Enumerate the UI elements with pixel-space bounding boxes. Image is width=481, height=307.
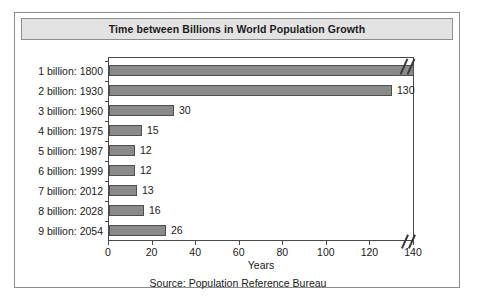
- bar-value-label: 26: [171, 223, 183, 238]
- bar: [109, 65, 414, 76]
- category-label: 4 billion: 1975: [38, 121, 103, 141]
- bar-value-label: 12: [140, 143, 152, 158]
- bar: [109, 105, 174, 116]
- y-axis-tick: [105, 201, 109, 202]
- x-axis-tick-label: 40: [189, 246, 201, 258]
- page-title: Time between Billions in World Populatio…: [109, 23, 365, 35]
- bar: [109, 125, 142, 136]
- plot-area: 1 billion: 18002 billion: 19303 billion:…: [15, 45, 461, 289]
- category-label: 6 billion: 1999: [38, 161, 103, 181]
- category-label: 3 billion: 1960: [38, 101, 103, 121]
- bar: [109, 205, 144, 216]
- bar-row: 30: [109, 101, 414, 121]
- chart-axes: 13030151212131626: [108, 57, 414, 241]
- x-axis-tick: [326, 241, 327, 245]
- x-axis-tick: [195, 241, 196, 245]
- x-axis-tick: [369, 241, 370, 245]
- bar-row: 12: [109, 161, 414, 181]
- bar: [109, 145, 135, 156]
- category-label: 2 billion: 1930: [38, 81, 103, 101]
- bar: [109, 225, 166, 236]
- bar-value-label: 15: [147, 123, 159, 138]
- source-note: Source: Population Reference Bureau: [15, 277, 461, 289]
- y-axis-tick: [105, 101, 109, 102]
- x-axis-tick: [413, 241, 414, 245]
- x-axis-tick-label: 60: [233, 246, 245, 258]
- category-axis-labels: 1 billion: 18002 billion: 19303 billion:…: [15, 61, 107, 241]
- y-axis-tick: [105, 121, 109, 122]
- axis-top-line: [108, 57, 414, 58]
- category-label: 1 billion: 1800: [38, 61, 103, 81]
- y-axis-tick: [105, 161, 109, 162]
- bar-row: 16: [109, 201, 414, 221]
- category-label: 9 billion: 2054: [38, 221, 103, 241]
- x-axis-tick-label: 140: [404, 246, 422, 258]
- x-axis-tick-label: 80: [276, 246, 288, 258]
- bar-value-label: 12: [140, 163, 152, 178]
- x-axis-tick: [108, 241, 109, 245]
- x-axis-tick-label: 0: [105, 246, 111, 258]
- bar: [109, 85, 392, 96]
- y-axis-tick: [105, 141, 109, 142]
- x-axis-tick: [152, 241, 153, 245]
- x-axis-tick: [282, 241, 283, 245]
- bar-row: 12: [109, 141, 414, 161]
- category-label: 5 billion: 1987: [38, 141, 103, 161]
- category-label: 8 billion: 2028: [38, 201, 103, 221]
- x-axis-tick-label: 100: [317, 246, 335, 258]
- bar-value-label: 13: [142, 183, 154, 198]
- bar-value-label: 16: [149, 203, 161, 218]
- y-axis-tick: [105, 81, 109, 82]
- bar-row: [109, 61, 414, 81]
- y-axis-tick: [105, 61, 109, 62]
- bar-row: 15: [109, 121, 414, 141]
- bar-row: 13: [109, 181, 414, 201]
- category-label: 7 billion: 2012: [38, 181, 103, 201]
- bar-row: 26: [109, 221, 414, 241]
- bar: [109, 165, 135, 176]
- bar: [109, 185, 137, 196]
- x-axis-tick-label: 120: [361, 246, 379, 258]
- bars-container: 13030151212131626: [109, 61, 414, 241]
- bar-value-label: 30: [179, 103, 191, 118]
- x-axis-scale: 020406080100120140: [108, 241, 414, 261]
- x-axis-tick-label: 20: [146, 246, 158, 258]
- y-axis-tick: [105, 181, 109, 182]
- x-axis-tick: [239, 241, 240, 245]
- bar-value-label: 130: [397, 83, 415, 98]
- bar-row: 130: [109, 81, 414, 101]
- y-axis-tick: [105, 221, 109, 222]
- chart-title-banner: Time between Billions in World Populatio…: [21, 18, 453, 40]
- figure-frame: Time between Billions in World Populatio…: [14, 12, 460, 288]
- x-axis-title: Years: [108, 259, 414, 271]
